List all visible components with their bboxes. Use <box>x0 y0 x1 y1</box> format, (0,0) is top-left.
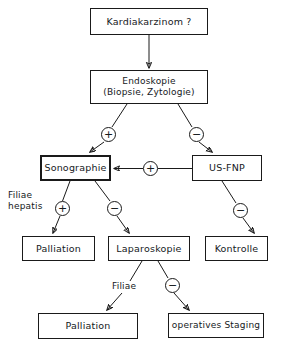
edge-sonographie-to-palliation-lower <box>53 216 60 233</box>
edge-laparoskopie-to-palliation-upper <box>130 261 142 281</box>
edge-label-filiae-line-0: Filiae <box>112 281 136 292</box>
node-palliation-1-line-0: Palliation <box>36 243 81 254</box>
minus-icon-glyph-6: − <box>168 280 177 291</box>
node-sonographie[interactable]: Sonographie <box>40 155 111 181</box>
edge-endoskopie-to-us-fnp-upper <box>178 104 192 127</box>
plus-icon-sonographie-positive: + <box>55 201 70 216</box>
node-laparoskopie[interactable]: Laparoskopie <box>108 236 190 261</box>
edge-us-fnp-to-kontrolle-upper <box>222 181 236 203</box>
plus-icon-glyph-2: + <box>146 163 155 174</box>
node-kardiakarzinom[interactable]: Kardiakarzinom ? <box>90 8 208 35</box>
node-us-fnp[interactable]: US-FNP <box>192 155 262 181</box>
node-sonographie-line-0: Sonographie <box>44 162 106 173</box>
node-palliation-from-laparoskopie[interactable]: Palliation <box>38 313 138 339</box>
node-kontrolle[interactable]: Kontrolle <box>205 236 268 261</box>
node-palliation-2-line-0: Palliation <box>65 320 110 331</box>
node-endoskopie-line-0: Endoskopie <box>122 76 175 87</box>
minus-icon-laparoskopie-negative: − <box>165 278 180 293</box>
node-endoskopie[interactable]: Endoskopie (Biopsie, Zytologie) <box>90 70 208 104</box>
minus-icon-us-fnp-negative: − <box>233 203 248 218</box>
plus-icon-glyph-3: + <box>58 203 67 214</box>
node-us-fnp-line-0: US-FNP <box>209 162 245 173</box>
minus-icon-glyph-1: − <box>192 129 201 140</box>
node-palliation-from-sonographie[interactable]: Palliation <box>22 236 95 261</box>
minus-icon-glyph-5: − <box>236 205 245 216</box>
edge-label-filiae-hepatis-line-0: Filiae <box>8 190 43 201</box>
node-kontrolle-line-0: Kontrolle <box>215 243 259 254</box>
edge-sonographie-to-laparoskopie-lower <box>117 216 129 233</box>
minus-icon-endoskopie-negative: − <box>189 127 204 142</box>
plus-icon-glyph-0: + <box>104 129 113 140</box>
edge-endoskopie-to-us-fnp-lower <box>199 142 212 152</box>
node-operatives-staging-line-0: operatives Staging <box>172 320 260 331</box>
edge-sonographie-to-laparoskopie-upper <box>95 181 110 201</box>
edge-us-fnp-to-kontrolle-lower <box>243 218 254 233</box>
edge-laparoskopie-to-palliation-lower <box>107 293 122 310</box>
node-endoskopie-line-1: (Biopsie, Zytologie) <box>103 87 195 98</box>
edge-label-filiae-hepatis: Filiae hepatis <box>8 190 43 213</box>
node-operatives-staging[interactable]: operatives Staging <box>168 313 264 338</box>
edge-sonographie-to-palliation-upper <box>63 181 71 201</box>
edge-label-filiae-hepatis-line-1: hepatis <box>8 201 43 212</box>
minus-icon-glyph-4: − <box>110 203 119 214</box>
edge-label-filiae: Filiae <box>112 281 136 292</box>
edge-endoskopie-to-sonographie-lower <box>90 142 104 152</box>
edge-endoskopie-to-sonographie-upper <box>112 104 127 127</box>
plus-icon-us-fnp-positive: + <box>143 161 158 176</box>
node-kardiakarzinom-line-0: Kardiakarzinom ? <box>106 16 191 27</box>
flowchart-diagram: Kardiakarzinom ? Endoskopie (Biopsie, Zy… <box>0 0 283 349</box>
edge-laparoskopie-to-operatives-staging-upper <box>158 261 168 278</box>
minus-icon-sonographie-negative: − <box>107 201 122 216</box>
plus-icon-endoskopie-positive: + <box>101 127 116 142</box>
edge-laparoskopie-to-operatives-staging-lower <box>174 293 189 310</box>
node-laparoskopie-line-0: Laparoskopie <box>116 243 181 254</box>
